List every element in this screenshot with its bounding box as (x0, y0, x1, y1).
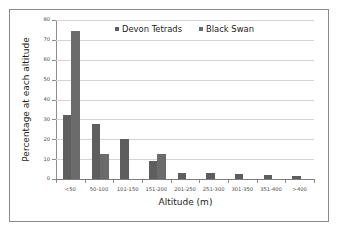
y-tick-mark (52, 20, 56, 21)
bar (206, 173, 215, 179)
legend-label: Devon Tetrads (122, 25, 182, 33)
y-tick-label: 80 (10, 17, 50, 22)
chart-legend: Devon TetradsBlack Swan (115, 25, 254, 33)
bar (63, 115, 72, 179)
y-tick-mark (52, 80, 56, 81)
legend-entry: Devon Tetrads (115, 25, 182, 33)
x-tick-mark (257, 180, 258, 183)
legend-entry: Black Swan (199, 25, 254, 33)
y-tick-mark (52, 40, 56, 41)
bars-layer (57, 20, 315, 179)
x-tick-label: 201-250 (174, 187, 196, 192)
bar (100, 154, 109, 179)
bar (120, 139, 129, 179)
x-tick-mark (285, 180, 286, 183)
x-tick-mark (171, 180, 172, 183)
x-tick-label: <50 (65, 187, 76, 192)
bar (92, 124, 101, 179)
x-tick-label: 351-400 (260, 187, 282, 192)
x-tick-label: 301-350 (231, 187, 253, 192)
y-tick-mark (52, 159, 56, 160)
x-axis-title: Altitude (m) (56, 198, 315, 207)
y-tick-label: 0 (10, 176, 50, 181)
bar (178, 173, 187, 179)
bar (235, 174, 244, 179)
x-axis-line (56, 179, 315, 180)
x-tick-mark (113, 180, 114, 183)
x-tick-mark (85, 180, 86, 183)
bar (264, 175, 273, 179)
bar (71, 31, 80, 179)
y-tick-mark (52, 100, 56, 101)
y-tick-mark (52, 60, 56, 61)
x-tick-mark (228, 180, 229, 183)
x-tick-label: 101-150 (117, 187, 139, 192)
bar (292, 176, 301, 179)
x-tick-label: 151-200 (145, 187, 167, 192)
x-tick-mark (199, 180, 200, 183)
y-tick-mark (52, 139, 56, 140)
x-tick-label: >400 (293, 187, 307, 192)
x-tick-mark (142, 180, 143, 183)
x-tick-mark (56, 180, 57, 183)
chart-figure: 01020304050607080 <5050-100101-150151-20… (0, 0, 339, 232)
bar (157, 154, 166, 179)
x-tick-label: 251-300 (203, 187, 225, 192)
bar (149, 161, 158, 179)
x-tick-mark (314, 180, 315, 183)
y-axis-title: Percentage at each altitude (22, 25, 31, 175)
y-tick-mark (52, 119, 56, 120)
legend-swatch-icon (199, 27, 203, 31)
legend-label: Black Swan (206, 25, 254, 33)
x-tick-label: 50-100 (90, 187, 108, 192)
legend-swatch-icon (115, 27, 119, 31)
